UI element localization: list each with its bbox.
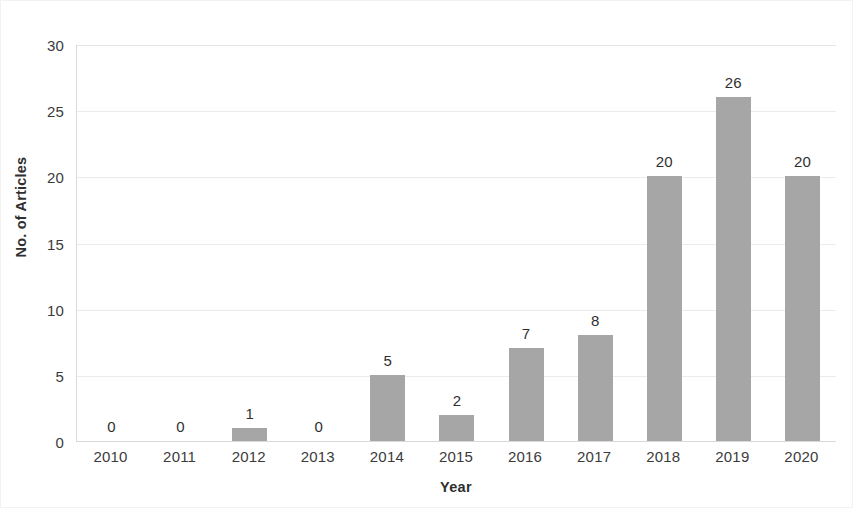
x-axis-tick-label: 2016 — [485, 448, 565, 465]
bar-data-label: 8 — [560, 312, 630, 329]
y-axis-tick-label: 20 — [4, 169, 64, 186]
y-axis-tick-label: 5 — [4, 367, 64, 384]
x-axis-tick-labels: 2010201120122013201420152016201720182019… — [76, 448, 836, 474]
bar-data-label: 7 — [491, 325, 561, 342]
bar-chart-figure: No. of Articles 051015202530 00105278202… — [0, 0, 853, 508]
x-axis-title: Year — [76, 479, 836, 495]
x-axis-tick-label: 2019 — [692, 448, 772, 465]
x-axis-tick-label: 2010 — [71, 448, 151, 465]
bar-slot: 26 — [699, 45, 768, 441]
x-axis-tick-label: 2013 — [278, 448, 358, 465]
y-axis-tick-label: 15 — [4, 235, 64, 252]
x-axis-tick-label: 2018 — [623, 448, 703, 465]
bar-slot: 0 — [284, 45, 353, 441]
bar-slot: 0 — [146, 45, 215, 441]
bar[interactable] — [785, 176, 820, 441]
y-axis-tick-label: 10 — [4, 301, 64, 318]
y-axis-tick-label: 30 — [4, 37, 64, 54]
plot-area: 00105278202620 — [76, 45, 836, 442]
bar-slot: 2 — [422, 45, 491, 441]
bar-data-label: 0 — [77, 418, 147, 435]
bar[interactable] — [578, 335, 613, 441]
y-axis-tick-label: 25 — [4, 103, 64, 120]
bar-slot: 20 — [768, 45, 837, 441]
bar-data-label: 20 — [629, 153, 699, 170]
bar-data-label: 0 — [146, 418, 216, 435]
bar-slot: 8 — [561, 45, 630, 441]
bar-slot: 7 — [492, 45, 561, 441]
bar-slot: 0 — [77, 45, 146, 441]
y-axis-tick-labels: 051015202530 — [1, 45, 64, 442]
x-axis-tick-label: 2020 — [761, 448, 841, 465]
x-axis-tick-label: 2015 — [416, 448, 496, 465]
y-axis-tick-label: 0 — [4, 434, 64, 451]
bar-data-label: 26 — [698, 74, 768, 91]
x-axis-tick-label: 2017 — [554, 448, 634, 465]
bar[interactable] — [232, 428, 267, 441]
bar-data-label: 5 — [353, 352, 423, 369]
x-axis-tick-label: 2012 — [209, 448, 289, 465]
bar-data-label: 0 — [284, 418, 354, 435]
bar[interactable] — [509, 348, 544, 441]
bar-slot: 1 — [215, 45, 284, 441]
bar-data-label: 1 — [215, 405, 285, 422]
bar-data-label: 2 — [422, 392, 492, 409]
bar[interactable] — [647, 176, 682, 441]
x-axis-tick-label: 2014 — [347, 448, 427, 465]
bar-data-label: 20 — [767, 153, 837, 170]
bar[interactable] — [439, 415, 474, 441]
x-axis-tick-label: 2011 — [140, 448, 220, 465]
bar[interactable] — [716, 97, 751, 441]
bar-slot: 20 — [630, 45, 699, 441]
bar[interactable] — [370, 375, 405, 441]
bar-slot: 5 — [353, 45, 422, 441]
